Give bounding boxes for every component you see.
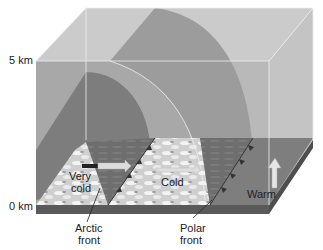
label-arctic-front-1: Arctic xyxy=(75,222,103,234)
axis-label-5km: 5 km xyxy=(9,54,33,66)
label-warm: Warm xyxy=(247,188,276,200)
label-very-cold-1: Very xyxy=(69,170,92,182)
label-polar-front-1: Polar xyxy=(180,222,206,234)
ground-slab xyxy=(36,205,269,214)
axis-label-0km: 0 km xyxy=(9,200,33,212)
label-cold: Cold xyxy=(161,176,184,188)
label-very-cold-2: cold xyxy=(71,182,91,194)
label-polar-front-2: front xyxy=(180,234,202,246)
air-mass-diagram: 5 km 0 km Very cold Cold Warm Arctic fro… xyxy=(0,0,323,250)
label-arctic-front-2: front xyxy=(78,234,100,246)
